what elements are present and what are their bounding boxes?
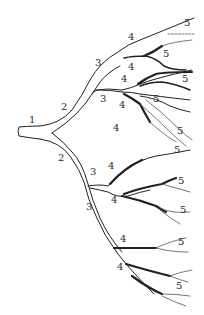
label-gen-4: 4 [120,234,126,244]
branch-4c [140,96,190,112]
branching-tree-diagram: 1 2 2 3 3 3 3 4 4 4 4 4 4 4 4 4 5 5 5 5 … [0,0,204,315]
label-gen-4: 4 [121,74,127,84]
label-gen-4: 4 [111,195,117,205]
label-gen-4: 4 [128,32,134,42]
label-gen-5: 5 [184,18,190,28]
label-gen-5: 5 [178,176,184,186]
label-gen-5: 5 [180,205,186,215]
branch-4d-dark [110,160,142,184]
label-gen-4: 4 [108,161,114,171]
label-gen-3: 3 [86,202,92,212]
branch-4h-dark [126,264,170,276]
label-gen-5: 5 [178,237,184,247]
branch-4a-dark [144,46,162,56]
label-gen-5: 5 [177,126,183,136]
label-gen-5: 5 [174,145,180,155]
label-gen-2-lower: 2 [58,153,64,163]
upper-branch-2-inner [52,66,120,133]
label-gen-1: 1 [29,115,35,125]
label-gen-4: 4 [128,62,134,72]
label-gen-5: 5 [176,281,182,291]
label-gen-3: 3 [90,167,96,177]
label-gen-4: 4 [113,123,119,133]
branch-5i-a [162,294,190,296]
tree-drawing [0,0,204,315]
label-gen-4: 4 [117,262,123,272]
upper-branch-3-fork [92,90,190,100]
label-gen-3: 3 [100,94,106,104]
label-gen-4: 4 [119,100,125,110]
label-gen-5: 5 [163,49,169,59]
branch-5e [162,184,190,192]
branch-5i-b [162,296,186,306]
branch-4f-dark [122,196,166,212]
trunk-segment-1 [18,126,40,139]
branch-5h-a [170,270,192,276]
label-gen-2-upper: 2 [61,102,67,112]
branch-4c-dark [124,94,150,122]
branch-4i-dark [132,276,162,294]
lower-branch-3-fork [88,150,190,186]
branch-5g-b [156,248,188,252]
label-gen-5: 5 [153,94,159,104]
branch-5a [162,40,192,46]
label-gen-3: 3 [95,58,101,68]
label-gen-5: 5 [182,74,188,84]
